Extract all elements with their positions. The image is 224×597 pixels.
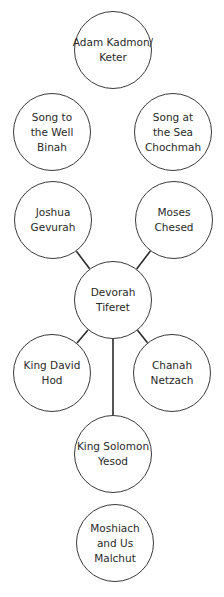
node-label-line: Chanah [152, 358, 192, 373]
node-label-line: Tiferet [96, 300, 130, 315]
node-label-line: the Sea [153, 125, 193, 140]
node-label-line: Binah [37, 140, 67, 155]
edge-tiferet-netzach [138, 330, 148, 342]
node-label-line: Chochmah [145, 140, 201, 155]
node-label-line: Moses [158, 205, 191, 220]
node-yesod: King Solomon Yesod [74, 415, 152, 493]
node-label-line: and Us [97, 536, 133, 551]
node-label-line: Song at [153, 110, 193, 125]
node-gevurah: Joshua Gevurah [14, 181, 92, 259]
node-keter: Adam Kadmon/ Keter [74, 11, 152, 89]
node-label-line: Moshiach [90, 521, 139, 536]
node-label-line: Adam Kadmon/ [73, 35, 153, 50]
node-netzach: Chanah Netzach [133, 334, 211, 412]
node-chochmah: Song at the Sea Chochmah [134, 93, 212, 171]
node-chesed: Moses Chesed [135, 181, 213, 259]
edge-gevurah-tiferet [76, 251, 89, 269]
node-label-line: King Solomon [77, 439, 149, 454]
node-label-line: Netzach [151, 373, 194, 388]
node-hod: King David Hod [13, 334, 91, 412]
node-label-line: King David [24, 358, 81, 373]
node-tiferet: Devorah Tiferet [74, 261, 152, 339]
node-label-line: Chesed [154, 220, 193, 235]
node-label-line: Gevurah [31, 220, 76, 235]
node-label-line: Devorah [91, 285, 136, 300]
node-binah: Song to the Well Binah [13, 93, 91, 171]
edge-tiferet-hod [77, 330, 88, 343]
node-malchut: Moshiach and Us Malchut [76, 504, 154, 582]
node-label-line: Hod [42, 373, 63, 388]
node-label-line: Song to [32, 110, 72, 125]
node-label-line: the Well [31, 125, 74, 140]
edge-chesed-tiferet [137, 251, 151, 269]
node-label-line: Yesod [98, 454, 128, 469]
node-label-line: Keter [99, 50, 127, 65]
node-label-line: Malchut [94, 551, 136, 566]
node-label-line: Joshua [36, 205, 71, 220]
